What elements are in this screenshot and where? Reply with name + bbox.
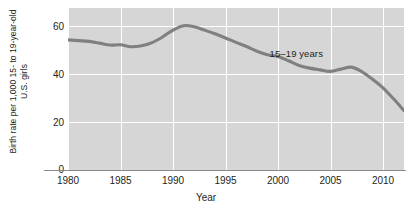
x-tick-2000: 2000 <box>256 175 300 186</box>
y-axis-title-line2: U.S. girls <box>18 0 29 167</box>
x-tick-1990: 1990 <box>151 175 195 186</box>
y-axis-title-line1: Birth rate per 1,000 15- to 19-year-old <box>8 0 19 167</box>
y-tick-20: 20 <box>40 118 64 128</box>
chart-container: Birth rate per 1,000 15- to 19-year-old … <box>0 0 412 210</box>
x-tick-1985: 1985 <box>99 175 143 186</box>
y-tick-40: 40 <box>40 70 64 80</box>
x-tick-1995: 1995 <box>204 175 248 186</box>
x-tick-2010: 2010 <box>361 175 405 186</box>
data-series-line <box>68 8 404 170</box>
x-tick-1980: 1980 <box>46 175 90 186</box>
x-tick-2005: 2005 <box>309 175 353 186</box>
series-path-15-19-years <box>68 25 404 110</box>
y-axis-title: Birth rate per 1,000 15- to 19-year-old … <box>8 0 29 167</box>
plot-area <box>68 8 404 170</box>
y-tick-60: 60 <box>40 22 64 32</box>
series-annotation-label: 15–19 years <box>270 48 323 59</box>
x-axis-title: Year <box>0 192 412 203</box>
x-axis-line <box>44 170 406 171</box>
